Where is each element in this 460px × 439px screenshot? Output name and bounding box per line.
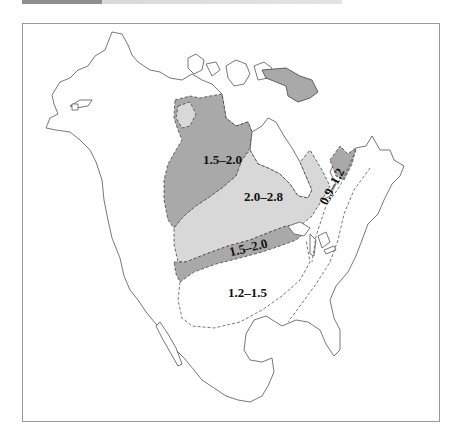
zone-arctic-dark (262, 68, 318, 102)
zone-label-nw: 1.5–2.0 (203, 152, 242, 168)
arctic-island-2 (226, 60, 250, 86)
arctic-island-4 (206, 62, 220, 76)
north-america-map (0, 0, 460, 439)
arctic-island-1 (188, 54, 204, 74)
zone-label-central: 2.0–2.8 (244, 189, 283, 205)
island-small (72, 104, 78, 110)
zone-label-south: 1.2–1.5 (228, 285, 267, 301)
